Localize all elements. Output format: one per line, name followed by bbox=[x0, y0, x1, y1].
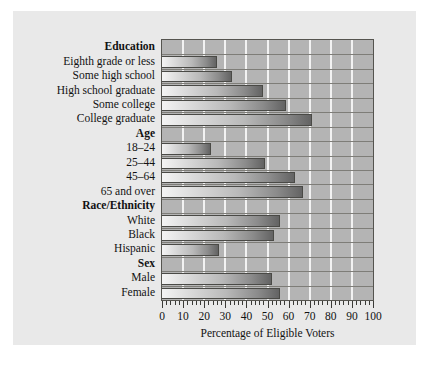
minor-tick bbox=[327, 301, 328, 305]
major-tick bbox=[289, 301, 290, 308]
minor-tick bbox=[179, 301, 180, 305]
minor-tick bbox=[192, 301, 193, 305]
major-tick bbox=[183, 301, 184, 308]
group-label: Education bbox=[105, 40, 156, 52]
group-label: Race/Ethnicity bbox=[82, 199, 155, 211]
bar-row bbox=[162, 156, 373, 170]
minor-tick bbox=[322, 301, 323, 305]
minor-tick bbox=[369, 301, 370, 305]
minor-tick bbox=[175, 301, 176, 305]
bar bbox=[162, 114, 312, 125]
minor-tick bbox=[255, 301, 256, 305]
bar-row bbox=[162, 141, 373, 155]
x-tick-label: 70 bbox=[304, 310, 316, 322]
bar bbox=[162, 158, 265, 169]
minor-tick bbox=[343, 301, 344, 305]
category-label: Hispanic bbox=[114, 242, 155, 254]
bar-row bbox=[162, 170, 373, 184]
major-tick bbox=[331, 301, 332, 308]
minor-tick bbox=[360, 301, 361, 305]
minor-tick bbox=[259, 301, 260, 305]
major-tick bbox=[373, 301, 374, 308]
bar-row bbox=[162, 286, 373, 300]
group-header-row bbox=[162, 127, 373, 141]
figure-panel: EducationEighth grade or lessSome high s… bbox=[13, 11, 416, 345]
bar-row bbox=[162, 98, 373, 112]
category-label: 18–24 bbox=[126, 141, 155, 153]
minor-tick bbox=[280, 301, 281, 305]
x-tick-label: 0 bbox=[159, 310, 165, 322]
bar bbox=[162, 85, 263, 96]
category-label: 45–64 bbox=[126, 170, 155, 182]
bar bbox=[162, 172, 295, 183]
major-tick bbox=[225, 301, 226, 308]
bar-row bbox=[162, 213, 373, 227]
category-label: 65 and over bbox=[101, 185, 155, 197]
category-label: Black bbox=[128, 228, 155, 240]
minor-tick bbox=[314, 301, 315, 305]
bar bbox=[162, 100, 286, 111]
minor-tick bbox=[221, 301, 222, 305]
bar-rows bbox=[162, 40, 373, 300]
minor-tick bbox=[284, 301, 285, 305]
category-label: Eighth grade or less bbox=[63, 55, 155, 67]
bar-row bbox=[162, 54, 373, 68]
minor-tick bbox=[293, 301, 294, 305]
category-label: White bbox=[127, 214, 155, 226]
group-label: Sex bbox=[138, 257, 155, 269]
x-axis-ticks bbox=[161, 301, 374, 309]
group-header-row bbox=[162, 257, 373, 271]
minor-tick bbox=[217, 301, 218, 305]
bar-row bbox=[162, 184, 373, 198]
minor-tick bbox=[242, 301, 243, 305]
group-header-row bbox=[162, 40, 373, 54]
x-tick-label: 10 bbox=[177, 310, 189, 322]
x-axis-title: Percentage of Eligible Voters bbox=[161, 327, 374, 339]
bar-row bbox=[162, 69, 373, 83]
minor-tick bbox=[200, 301, 201, 305]
minor-tick bbox=[208, 301, 209, 305]
minor-tick bbox=[187, 301, 188, 305]
major-tick bbox=[310, 301, 311, 308]
plot-area bbox=[161, 39, 374, 301]
minor-tick bbox=[170, 301, 171, 305]
minor-tick bbox=[238, 301, 239, 305]
category-label: Female bbox=[121, 286, 155, 298]
minor-tick bbox=[196, 301, 197, 305]
bar-row bbox=[162, 271, 373, 285]
minor-tick bbox=[234, 301, 235, 305]
major-tick bbox=[268, 301, 269, 308]
bar-row bbox=[162, 228, 373, 242]
minor-tick bbox=[348, 301, 349, 305]
minor-tick bbox=[251, 301, 252, 305]
minor-tick bbox=[272, 301, 273, 305]
minor-tick bbox=[318, 301, 319, 305]
bar bbox=[162, 215, 280, 226]
x-tick-label: 30 bbox=[220, 310, 232, 322]
major-tick bbox=[352, 301, 353, 308]
x-axis-tick-labels: 0102030405060708090100 bbox=[161, 310, 374, 326]
group-label: Age bbox=[136, 127, 155, 139]
minor-tick bbox=[301, 301, 302, 305]
minor-tick bbox=[356, 301, 357, 305]
bar bbox=[162, 56, 217, 67]
category-label: 25–44 bbox=[126, 156, 155, 168]
x-tick-label: 60 bbox=[283, 310, 295, 322]
minor-tick bbox=[230, 301, 231, 305]
x-tick-label: 100 bbox=[364, 310, 381, 322]
minor-tick bbox=[365, 301, 366, 305]
x-tick-label: 20 bbox=[198, 310, 210, 322]
major-tick bbox=[246, 301, 247, 308]
bar-row bbox=[162, 83, 373, 97]
bar-row bbox=[162, 242, 373, 256]
minor-tick bbox=[166, 301, 167, 305]
minor-tick bbox=[213, 301, 214, 305]
bar bbox=[162, 244, 219, 255]
category-label: College graduate bbox=[77, 112, 155, 124]
category-labels: EducationEighth grade or lessSome high s… bbox=[13, 39, 159, 301]
x-tick-label: 90 bbox=[346, 310, 358, 322]
minor-tick bbox=[263, 301, 264, 305]
minor-tick bbox=[305, 301, 306, 305]
bar bbox=[162, 288, 280, 299]
bar bbox=[162, 71, 232, 82]
